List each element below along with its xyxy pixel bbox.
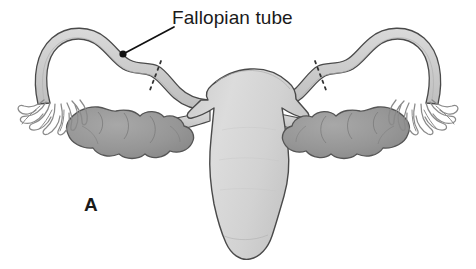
left-ovary <box>67 107 194 159</box>
uterus-body <box>187 69 309 259</box>
panel-letter-label: A <box>84 194 98 216</box>
fallopian-tube-pointer-dot <box>119 50 126 57</box>
fallopian-tube-label: Fallopian tube <box>172 7 293 29</box>
anatomy-diagram-svg <box>0 0 476 269</box>
left-fallopian-tube <box>35 28 208 110</box>
anatomy-figure: Fallopian tube A <box>0 0 476 269</box>
fallopian-tube-leader-line <box>119 27 174 58</box>
